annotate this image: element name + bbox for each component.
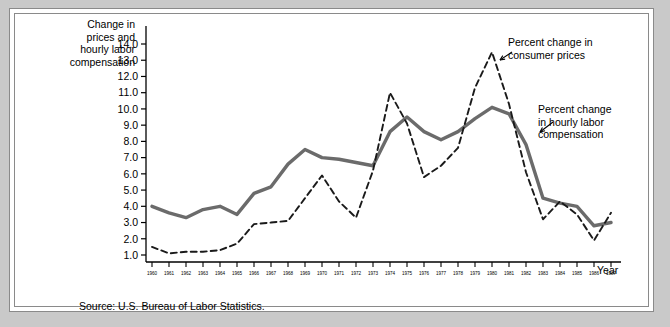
svg-text:14.0: 14.0 <box>118 38 139 50</box>
svg-text:1972: 1972 <box>351 271 362 276</box>
svg-text:1960: 1960 <box>147 271 158 276</box>
svg-text:2.0: 2.0 <box>123 233 138 245</box>
svg-text:4.0: 4.0 <box>123 200 138 212</box>
svg-text:1984: 1984 <box>555 271 566 276</box>
series-consumer-prices <box>152 52 611 253</box>
svg-text:1970: 1970 <box>317 271 328 276</box>
svg-text:11.0: 11.0 <box>118 86 138 98</box>
svg-text:1967: 1967 <box>266 271 277 276</box>
svg-text:1982: 1982 <box>521 271 532 276</box>
svg-text:1962: 1962 <box>181 271 192 276</box>
leader-arrow-consumer-prices <box>500 52 512 60</box>
svg-text:1978: 1978 <box>453 271 464 276</box>
svg-text:1986: 1986 <box>589 271 600 276</box>
leader-arrow-hourly-compensation <box>540 122 553 132</box>
svg-text:1965: 1965 <box>232 271 243 276</box>
svg-text:7.0: 7.0 <box>123 151 138 163</box>
svg-text:1973: 1973 <box>368 271 379 276</box>
svg-text:1981: 1981 <box>504 271 515 276</box>
svg-text:8.0: 8.0 <box>123 135 138 147</box>
svg-text:1975: 1975 <box>402 271 413 276</box>
svg-text:10.0: 10.0 <box>118 103 139 115</box>
source-note: Source: U.S. Bureau of Labor Statistics. <box>79 300 265 312</box>
svg-text:1971: 1971 <box>334 271 345 276</box>
svg-text:1963: 1963 <box>198 271 209 276</box>
svg-text:1966: 1966 <box>249 271 260 276</box>
svg-text:3.0: 3.0 <box>123 216 138 228</box>
svg-text:1979: 1979 <box>470 271 481 276</box>
svg-text:1976: 1976 <box>419 271 430 276</box>
svg-text:1969: 1969 <box>300 271 311 276</box>
svg-text:1977: 1977 <box>436 271 447 276</box>
svg-text:1968: 1968 <box>283 271 294 276</box>
line-chart: 1.02.03.04.05.06.07.08.09.010.011.012.01… <box>0 0 645 304</box>
svg-text:1974: 1974 <box>385 271 396 276</box>
svg-text:9.0: 9.0 <box>123 119 138 131</box>
svg-text:6.0: 6.0 <box>123 168 138 180</box>
svg-text:12.0: 12.0 <box>118 70 139 82</box>
svg-text:1.0: 1.0 <box>123 249 138 261</box>
svg-text:1985: 1985 <box>572 271 583 276</box>
svg-text:13.0: 13.0 <box>118 54 139 66</box>
chart-area: Change in prices and hourly labor compen… <box>0 0 645 304</box>
svg-text:5.0: 5.0 <box>123 184 138 196</box>
svg-text:1980: 1980 <box>487 271 498 276</box>
series-hourly-compensation <box>152 107 611 225</box>
svg-text:1964: 1964 <box>215 271 226 276</box>
svg-text:1987: 1987 <box>606 271 617 276</box>
svg-text:1983: 1983 <box>538 271 549 276</box>
svg-text:1961: 1961 <box>164 271 175 276</box>
